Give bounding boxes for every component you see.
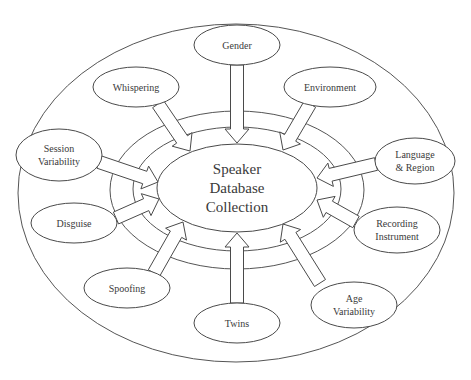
node-recording-instrument: RecordingInstrument: [354, 207, 440, 253]
node-disguise: Disguise: [31, 203, 117, 243]
node-age-variability: AgeVariability: [311, 282, 397, 328]
node-label-line: Twins: [225, 318, 249, 329]
node-environment: Environment: [284, 67, 376, 107]
arrow-age-variability-to-center: [280, 224, 325, 287]
diagram-canvas: SpeakerDatabaseCollection GenderEnvironm…: [0, 0, 471, 380]
node-label-line: Variability: [38, 156, 80, 167]
speaker-database-diagram: SpeakerDatabaseCollection GenderEnvironm…: [0, 0, 471, 380]
center-label-line: Speaker: [213, 161, 261, 177]
arrow-gender-to-center: [225, 65, 249, 143]
center-node-speaker-database-collection: SpeakerDatabaseCollection: [157, 144, 317, 232]
node-spoofing: Spoofing: [84, 268, 170, 308]
node-label-line: & Region: [395, 162, 434, 173]
node-whispering: Whispering: [93, 67, 179, 107]
node-label-line: Instrument: [375, 231, 419, 242]
node-label-line: Variability: [333, 306, 375, 317]
node-label-line: Spoofing: [109, 283, 146, 294]
center-label-line: Database: [210, 180, 265, 196]
node-label-line: Environment: [304, 82, 356, 93]
node-label-line: Gender: [222, 40, 252, 51]
node-twins: Twins: [194, 303, 280, 343]
node-session-variability: SessionVariability: [16, 129, 102, 181]
arrow-disguise-to-center: [113, 194, 159, 224]
arrow-whispering-to-center: [153, 100, 192, 151]
node-gender: Gender: [194, 25, 280, 65]
node-label-line: Whispering: [113, 82, 160, 93]
arrow-twins-to-center: [225, 233, 249, 303]
arrow-spoofing-to-center: [148, 222, 186, 276]
arrow-session-variability-to-center: [97, 156, 158, 189]
arrow-language-region-to-center: [317, 158, 378, 187]
node-language-region: Language& Region: [375, 138, 455, 184]
center-label-line: Collection: [206, 199, 269, 215]
node-label-line: Disguise: [57, 218, 93, 229]
node-label-line: Session: [44, 143, 75, 154]
node-label-line: Age: [346, 293, 363, 304]
node-label-line: Language: [395, 149, 435, 160]
node-label-line: Recording: [376, 218, 418, 229]
